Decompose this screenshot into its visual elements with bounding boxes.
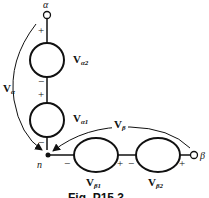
- va1-plus: +: [38, 88, 44, 100]
- va2-label: Vα2: [73, 53, 89, 67]
- va2-plus: +: [38, 24, 44, 36]
- source-va1: [30, 103, 64, 137]
- va1-minus: −: [38, 136, 44, 148]
- vb2-minus: −: [128, 157, 134, 169]
- va2-minus: −: [38, 75, 44, 87]
- circuit-diagram: α + − Vα2 + − Vα1 n − + Vβ1 − + Vβ2 β Vα…: [0, 0, 209, 198]
- source-vb2: [136, 138, 180, 172]
- beta-terminal: [191, 152, 198, 159]
- alpha-label: α: [43, 0, 49, 10]
- vb1-plus: +: [117, 157, 123, 169]
- source-vb1: [74, 138, 118, 172]
- node-n-label: n: [37, 159, 42, 170]
- vb1-label: Vβ1: [86, 176, 101, 190]
- beta-label: β: [199, 150, 205, 161]
- vb2-plus: +: [179, 157, 185, 169]
- alpha-terminal: [44, 12, 51, 19]
- va1-label: Vα1: [73, 112, 88, 126]
- vb1-minus: −: [64, 157, 70, 169]
- vb2-label: Vβ2: [148, 176, 164, 190]
- source-va2: [30, 43, 64, 77]
- figure-caption: Fig. P15.3: [68, 191, 124, 198]
